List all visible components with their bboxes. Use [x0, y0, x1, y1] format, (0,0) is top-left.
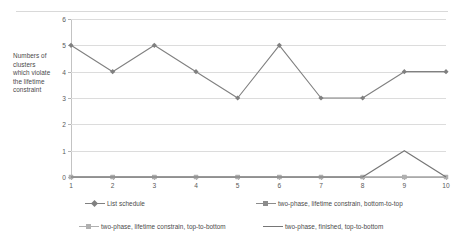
marker-s0-p8 [360, 95, 365, 100]
marker-s0-p3 [152, 43, 157, 48]
marker-s2-p9 [402, 175, 406, 179]
marker-s0-p1 [68, 43, 73, 48]
marker-s0-p9 [402, 69, 407, 74]
y-axis-title: Numbers of clusters which violate the li… [13, 52, 67, 95]
x-tick-label-8: 8 [361, 182, 365, 189]
y-axis-title-line-3: which violate [13, 69, 67, 78]
x-tick-label-6: 6 [277, 182, 281, 189]
legend-label-0: List schedule [107, 200, 145, 207]
x-tick-label-7: 7 [319, 182, 323, 189]
x-tick-label-9: 9 [402, 182, 406, 189]
y-tick-label-4: 4 [62, 68, 66, 75]
top-divider [16, 11, 448, 12]
legend-key-line-icon [263, 223, 283, 230]
legend-key-square-icon [256, 200, 276, 207]
legend-label-3: two-phase, finished, top-to-bottom [285, 223, 383, 230]
marker-s0-p4 [193, 69, 198, 74]
y-tick-label-1: 1 [62, 147, 66, 154]
x-tick-label-10: 10 [442, 182, 449, 189]
y-tick-label-0: 0 [62, 174, 66, 181]
y-axis-title-line-2: clusters [13, 61, 67, 70]
y-axis-title-line-5: constraint [13, 86, 67, 95]
legend-label-1: two-phase, lifetime constrain, bottom-to… [278, 200, 403, 207]
series-line-3 [71, 151, 446, 177]
marker-s0-p2 [110, 69, 115, 74]
x-tick-label-4: 4 [194, 182, 198, 189]
legend-item-two-phase-finished-top-to-bottom[interactable]: two-phase, finished, top-to-bottom [263, 223, 383, 230]
series-3 [71, 151, 446, 177]
chart-legend: List schedule two-phase, lifetime constr… [71, 198, 449, 242]
x-tick-label-1: 1 [69, 182, 73, 189]
x-tick-label-3: 3 [152, 182, 156, 189]
marker-s0-p10 [443, 69, 448, 74]
y-axis-title-line-4: the lifetime [13, 78, 67, 87]
x-tick-label-5: 5 [236, 182, 240, 189]
y-tick-label-3: 3 [62, 95, 66, 102]
legend-key-diamond-icon [85, 200, 105, 207]
series-line-0 [71, 45, 446, 98]
plot-area: 0123456 12345678910 [71, 19, 446, 177]
series-plot [71, 19, 446, 177]
line-chart: Numbers of clusters which violate the li… [0, 0, 454, 247]
legend-label-2: two-phase, lifetime constrain, top-to-bo… [101, 223, 226, 230]
x-tick-label-2: 2 [111, 182, 115, 189]
y-tick-label-5: 5 [62, 42, 66, 49]
legend-item-two-phase-lifetime-bottom-to-top[interactable]: two-phase, lifetime constrain, bottom-to… [256, 200, 403, 207]
legend-key-square-light-icon [79, 223, 99, 230]
y-axis-title-line-1: Numbers of [13, 52, 67, 61]
legend-item-list-schedule[interactable]: List schedule [85, 200, 145, 207]
series-0 [68, 43, 448, 101]
y-tick-label-2: 2 [62, 121, 66, 128]
y-tick-label-6: 6 [62, 16, 66, 23]
legend-item-two-phase-lifetime-top-to-bottom[interactable]: two-phase, lifetime constrain, top-to-bo… [79, 223, 226, 230]
